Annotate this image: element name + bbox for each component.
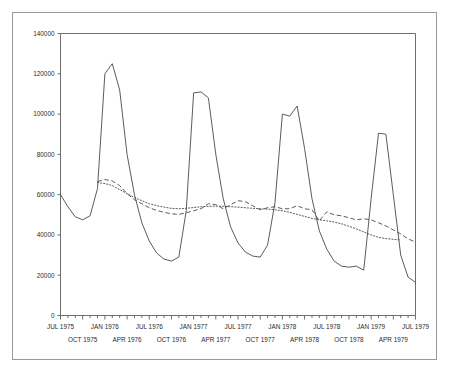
x-tick-label-row2: OCT 1976: [157, 336, 187, 343]
data-series-group: [61, 64, 416, 283]
chart-canvas: 020000400006000080000100000120000140000 …: [0, 0, 451, 373]
y-tick-label: 40000: [37, 231, 55, 238]
x-tick-label-row2: OCT 1975: [68, 336, 98, 343]
y-tick-label: 20000: [37, 272, 55, 279]
y-tick-label: 0: [51, 312, 55, 319]
x-tick-label-row1: JAN 1979: [357, 323, 386, 330]
seasonal-time-series-chart: 020000400006000080000100000120000140000 …: [0, 0, 451, 373]
x-tick-label-row1: JUL 1979: [402, 323, 430, 330]
x-tick-label-row1: JUL 1978: [313, 323, 341, 330]
x-tick-label-row2: APR 1979: [379, 336, 409, 343]
y-tick-label: 140000: [33, 30, 55, 37]
x-tick-label-row1: JUL 1977: [224, 323, 252, 330]
plot-frame: [61, 34, 416, 316]
series-observed: [61, 64, 416, 283]
x-tick-label-row2: APR 1977: [201, 336, 231, 343]
chart-screenshot: 020000400006000080000100000120000140000 …: [0, 0, 451, 373]
x-tick-label-row1: JAN 1977: [180, 323, 209, 330]
plot-area-border: [61, 34, 416, 316]
x-tick-label-row1: JAN 1978: [268, 323, 297, 330]
x-tick-label-row2: OCT 1978: [334, 336, 364, 343]
x-tick-label-row1: JAN 1976: [91, 323, 120, 330]
y-axis-ticks: 020000400006000080000100000120000140000: [33, 30, 60, 319]
y-tick-label: 60000: [37, 191, 55, 198]
y-tick-label: 80000: [37, 151, 55, 158]
x-tick-label-row1: JUL 1976: [136, 323, 164, 330]
x-tick-label-row1: JUL 1975: [47, 323, 75, 330]
y-tick-label: 100000: [33, 110, 55, 117]
series-trend-dotted: [97, 183, 400, 240]
x-axis-labels: JUL 1975OCT 1975JAN 1976APR 1976JUL 1976…: [47, 323, 430, 343]
x-axis-ticks: [61, 316, 416, 320]
x-tick-label-row2: OCT 1977: [246, 336, 276, 343]
x-tick-label-row2: APR 1978: [290, 336, 320, 343]
x-tick-label-row2: APR 1976: [112, 336, 142, 343]
y-tick-label: 120000: [33, 70, 55, 77]
